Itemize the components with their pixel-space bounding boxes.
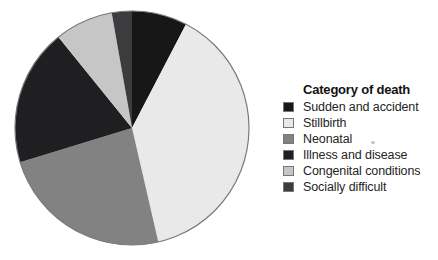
legend-label: Illness and disease	[303, 148, 407, 162]
legend-row: Congenital conditions	[283, 163, 435, 179]
figure: Category of death Sudden and accident St…	[0, 0, 438, 260]
legend-row: Stillbirth	[283, 115, 435, 131]
legend-swatch-congenital-conditions	[283, 166, 294, 176]
legend-label: Neonatal	[303, 132, 352, 146]
legend-title: Category of death	[303, 83, 435, 97]
legend: Category of death Sudden and accident St…	[283, 83, 435, 195]
legend-row: Sudden and accident	[283, 99, 435, 115]
legend-swatch-illness-and-disease	[283, 150, 294, 160]
legend-row: Illness and disease	[283, 147, 435, 163]
scan-speck-artifact	[371, 141, 375, 144]
legend-label: Socially difficult	[303, 180, 386, 194]
pie-chart	[0, 0, 280, 260]
legend-label: Congenital conditions	[303, 164, 420, 178]
legend-label: Sudden and accident	[303, 100, 419, 114]
legend-row: Socially difficult	[283, 179, 435, 195]
legend-label: Stillbirth	[303, 116, 346, 130]
legend-swatch-socially-difficult	[283, 182, 294, 192]
pie-chart-svg	[0, 0, 280, 260]
legend-swatch-sudden-and-accident	[283, 102, 294, 112]
legend-row: Neonatal	[283, 131, 435, 147]
legend-swatch-neonatal	[283, 134, 294, 144]
legend-swatch-stillbirth	[283, 118, 294, 128]
